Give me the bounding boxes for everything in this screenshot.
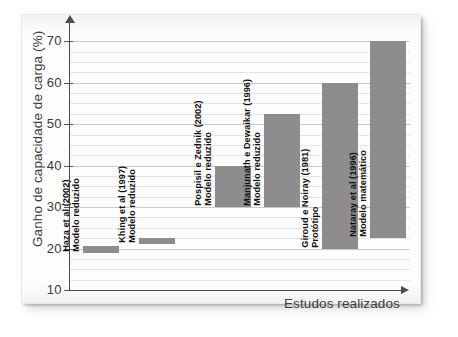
gridline-minor <box>69 62 410 63</box>
x-axis-arrow-icon <box>401 286 409 294</box>
figure-canvas: 70605040302010 Haza et al (2002)Modelo r… <box>0 0 458 337</box>
bar-label-line1: Giroud e Noiray (1981) <box>300 148 310 247</box>
bar-label-line1: Khing et al (1997) <box>117 166 127 243</box>
y-axis-arrow-icon <box>65 15 75 23</box>
bar-label-2: Khing et al (1997)Modelo reduzido <box>117 166 138 243</box>
bar-label-3: Pospisil e Zednik (2002)Modelo reduzido <box>193 101 214 206</box>
bar-label-line2: Modelo matemático <box>359 150 369 237</box>
gridline-minor <box>69 103 410 104</box>
gridline-minor <box>69 135 410 136</box>
bar-6 <box>370 41 406 238</box>
chart-plot-area: 70605040302010 Haza et al (2002)Modelo r… <box>22 15 420 303</box>
bar-label-line1: Manjunath e Dewaikar (1996) <box>242 79 252 206</box>
bar-label-line1: Nataray et al (1996) <box>348 150 358 237</box>
bar-label-line1: Pospisil e Zednik (2002) <box>193 101 203 206</box>
bar-label-line2: Modelo reduzido <box>128 166 138 243</box>
y-axis-title: Ganho de capacidade de carga (%) <box>30 31 45 247</box>
gridline-major <box>69 83 410 84</box>
bar-label-line2: Modelo reduzido <box>72 178 82 252</box>
bar-label-1: Haza et al (2002)Modelo reduzido <box>61 178 82 252</box>
gridline-minor <box>69 52 410 53</box>
bar-label-line2: Protótipo <box>311 148 321 247</box>
bar-label-6: Nataray et al (1996)Modelo matemático <box>348 150 369 237</box>
gridline-minor <box>69 72 410 73</box>
bar-4 <box>264 114 300 207</box>
gridline-minor <box>69 93 410 94</box>
y-axis-tick-label: 10 <box>22 282 62 297</box>
bar-label-line2: Modelo reduzido <box>253 79 263 206</box>
x-axis-title: Estudos realizados <box>284 296 400 311</box>
bar-label-line2: Modelo reduzido <box>204 101 214 206</box>
gridline-minor <box>69 259 410 260</box>
bar-2 <box>139 238 175 244</box>
x-axis-line <box>69 290 402 291</box>
bar-1 <box>83 246 119 252</box>
scanned-page: 70605040302010 Haza et al (2002)Modelo r… <box>22 15 420 303</box>
gridline-minor <box>69 145 410 146</box>
gridline-minor <box>69 114 410 115</box>
gridline-major <box>69 124 410 125</box>
bar-label-4: Manjunath e Dewaikar (1996)Modelo reduzi… <box>242 79 263 206</box>
bar-label-5: Giroud e Noiray (1981)Protótipo <box>300 148 321 247</box>
y-axis-line <box>69 23 70 290</box>
gridline-minor <box>69 280 410 281</box>
gridline-major <box>69 41 410 42</box>
gridline-minor <box>69 269 410 270</box>
gridline-major <box>69 249 410 250</box>
